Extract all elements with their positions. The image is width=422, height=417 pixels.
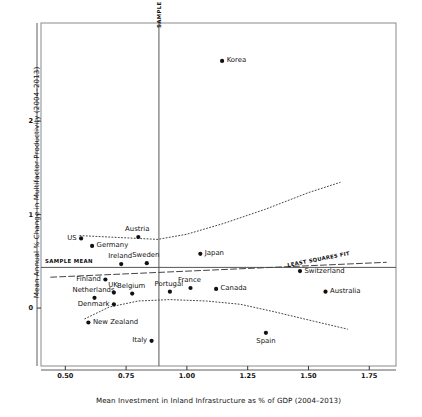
point-label-spain: Spain [256,337,275,345]
point-label-korea: Korea [227,56,247,64]
data-point-germany [90,244,94,248]
data-point-sweden [145,261,149,265]
sample-mean-vertical-label: SAMPLE MEAN [156,0,162,28]
data-point-finland [103,277,107,281]
x-tick-label: 1.50 [288,372,328,380]
point-label-new-zealand: New Zealand [93,318,138,326]
data-point-austria [136,235,140,239]
sample-mean-horizontal-label: SAMPLE MEAN [45,258,93,264]
point-label-ireland: Ireland [108,252,132,260]
point-label-austria: Austria [125,225,149,233]
y-tick-label: 1 [19,211,33,219]
point-label-finland: Finland [76,275,101,283]
data-point-korea [220,59,224,63]
plot-canvas [0,0,422,417]
y-axis-label: Mean Annual % Change in Multifactor Prod… [32,63,41,303]
data-point-france [188,286,192,290]
data-point-denmark [112,302,116,306]
data-point-canada [214,287,218,291]
point-label-australia: Australia [330,287,360,295]
data-point-us [79,236,83,240]
point-label-belgium: Belgium [117,282,145,290]
upper-loess-curve [80,182,340,239]
point-label-netherlands: Netherlands [72,286,114,294]
data-point-italy [150,339,154,343]
point-label-us: US [67,234,76,242]
point-label-denmark: Denmark [78,300,110,308]
point-label-switzerland: Switzerland [304,267,344,275]
x-tick-label: 1.00 [167,372,207,380]
point-label-italy: Italy [132,336,147,344]
point-label-germany: Germany [97,241,129,249]
x-tick-label: 0.50 [45,372,85,380]
y-tick-label: 2 [19,117,33,125]
scatter-plot-figure: Mean Annual % Change in Multifactor Prod… [0,0,422,417]
data-point-australia [323,290,327,294]
x-tick-label: 0.75 [106,372,146,380]
data-point-japan [198,252,202,256]
data-point-switzerland [298,269,302,273]
x-tick-label: 1.25 [228,372,268,380]
x-tick-label: 1.75 [349,372,389,380]
data-point-new-zealand [86,320,90,324]
point-label-sweden: Sweden [132,251,159,259]
point-label-canada: Canada [221,284,247,292]
data-point-spain [264,331,268,335]
x-axis-label: Mean Investment in Inland Infrastructure… [41,396,396,405]
point-label-france: France [178,276,201,284]
data-point-belgium [130,292,134,296]
data-point-portugal [168,290,172,294]
point-label-japan: Japan [205,249,224,257]
data-point-ireland [119,262,123,266]
y-tick-label: 0 [19,304,33,312]
